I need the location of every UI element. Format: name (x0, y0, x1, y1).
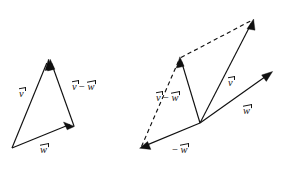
vector-v-minus-w-right-shaft (182, 62, 201, 124)
label-v-right-text: v (228, 77, 233, 89)
label-neg-w-right: −w (170, 144, 188, 156)
label-v-minus-w-left-head: v (72, 81, 77, 93)
label-v-right: v (228, 77, 233, 89)
label-neg-w-right-op: − (170, 144, 181, 155)
dashed-diagonal-top (181, 21, 251, 58)
label-v-minus-w-right-tail: w (171, 92, 178, 104)
vector-v-minus-w-left-shaft (52, 64, 74, 127)
label-v-minus-w-right-head: v (156, 92, 161, 104)
vector-v-left-shaft (12, 63, 47, 148)
label-v-left-text: v (19, 88, 24, 100)
label-v-left: v (19, 88, 24, 100)
label-w-right-text: w (243, 105, 250, 117)
parallelogram-diagram (140, 19, 273, 149)
label-v-minus-w-left: v−w (72, 81, 95, 93)
label-v-minus-w-right: v−w (156, 92, 179, 104)
vector-neg-w-arrowhead (140, 142, 151, 150)
vector-w-right-arrowhead (262, 72, 273, 82)
vector-figure: v v−w w v−w v w −w (0, 0, 283, 170)
label-v-minus-w-left-op: − (77, 81, 88, 92)
label-v-minus-w-right-op: − (161, 92, 172, 103)
triangle-diagram (12, 59, 75, 148)
label-w-left-text: w (40, 144, 47, 156)
vector-neg-w-shaft (145, 123, 200, 146)
label-w-right: w (243, 105, 250, 117)
label-w-left: w (40, 144, 47, 156)
vector-v-right-arrowhead (247, 19, 255, 30)
label-neg-w-right-text: w (181, 144, 188, 156)
label-v-minus-w-left-tail: w (87, 81, 94, 93)
vector-w-right-shaft (200, 75, 268, 123)
